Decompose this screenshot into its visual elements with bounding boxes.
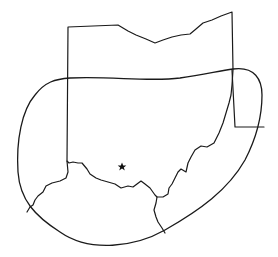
star-shape	[118, 163, 127, 171]
star-marker-icon	[118, 163, 127, 171]
ohio-state-outline	[67, 12, 233, 197]
map-canvas	[0, 0, 278, 257]
map-svg	[0, 0, 278, 257]
indiana-kentucky-border-line	[27, 161, 68, 212]
kentucky-west-virginia-border-line	[154, 197, 165, 233]
coverage-contour	[18, 69, 262, 246]
